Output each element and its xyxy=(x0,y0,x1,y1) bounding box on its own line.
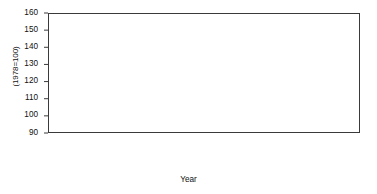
x-axis-tick-labels: 6768697071727374757677787980818283848586… xyxy=(0,156,377,168)
y-axis-title: (1978=100) xyxy=(11,22,20,112)
y-tick-label: 160 xyxy=(16,9,38,17)
line-chart: 90100110120130140150160 (1978=100) 67686… xyxy=(0,0,377,194)
plot-area xyxy=(48,13,360,133)
x-axis-title: Year xyxy=(0,175,377,184)
y-tick-label: 100 xyxy=(16,111,38,119)
y-tick-label: 90 xyxy=(16,129,38,137)
